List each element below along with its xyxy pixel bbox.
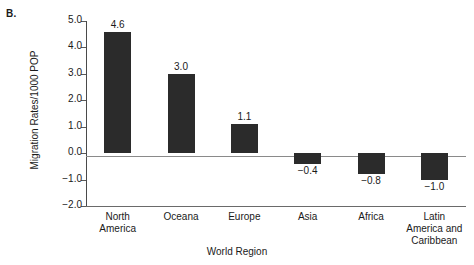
x-category-label-line: America and: [392, 223, 474, 235]
bar-value-label: −0.4: [278, 165, 338, 176]
y-tick-label: 5.0: [48, 14, 82, 25]
y-axis-title: Migration Rates/1000 POP: [28, 15, 41, 205]
y-tick-label: −1.0: [48, 173, 82, 184]
bar: [294, 153, 321, 164]
y-tick-label: 3.0: [48, 67, 82, 78]
bar: [168, 74, 195, 153]
bar: [231, 124, 258, 153]
bar: [104, 32, 131, 154]
bar: [358, 153, 385, 174]
x-category-label: LatinAmerica andCaribbean: [392, 211, 474, 247]
plot-area: 5.04.03.02.01.00.0−1.0−2.0 4.63.01.1−0.4…: [86, 21, 466, 206]
x-category-label-line: Latin: [392, 211, 474, 223]
y-tick-label: 0.0: [48, 146, 82, 157]
x-category-label-line: America: [76, 223, 160, 235]
y-tick-label: 2.0: [48, 93, 82, 104]
bar-value-label: −0.8: [341, 175, 401, 186]
y-tick-label: 4.0: [48, 40, 82, 51]
x-axis-line: [86, 206, 466, 207]
y-tick-label: 1.0: [48, 120, 82, 131]
zero-baseline: [86, 156, 466, 157]
bar-value-label: 3.0: [151, 61, 211, 72]
y-axis-line: [86, 21, 87, 206]
x-axis-title: World Region: [0, 246, 474, 257]
panel-letter: B.: [6, 8, 16, 19]
bar-value-label: 1.1: [214, 111, 274, 122]
bar-value-label: 4.6: [88, 19, 148, 30]
bar-value-label: −1.0: [404, 181, 464, 192]
bar: [421, 153, 448, 179]
y-tick-label: −2.0: [48, 199, 82, 210]
